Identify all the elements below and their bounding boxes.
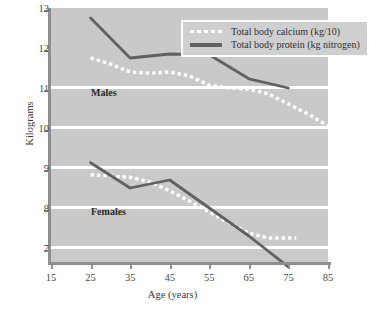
x-tick-label-35: 35 <box>118 272 142 283</box>
plot-inner: Males Females Total body calcium (kg/10)… <box>51 8 328 262</box>
x-tick-label-45: 45 <box>158 272 182 283</box>
x-tick-25 <box>91 262 93 269</box>
legend-label-protein: Total body protein (kg nitrogen) <box>231 39 360 51</box>
x-tick-65 <box>249 262 251 269</box>
x-tick-label-65: 65 <box>237 272 261 283</box>
x-tick-85 <box>328 262 330 269</box>
legend-item-calcium: Total body calcium (kg/10) <box>189 25 360 38</box>
annotation-males: Males <box>91 87 117 98</box>
x-tick-label-75: 75 <box>276 272 300 283</box>
x-tick-label-15: 15 <box>39 272 63 283</box>
annotation-females: Females <box>91 206 126 217</box>
legend-swatch-dotted-icon <box>189 27 223 37</box>
plot-area: Males Females Total body calcium (kg/10)… <box>51 8 328 262</box>
legend-label-calcium: Total body calcium (kg/10) <box>231 26 340 38</box>
legend-item-protein: Total body protein (kg nitrogen) <box>189 38 360 51</box>
y-tick-label-12: 12 <box>19 44 49 54</box>
x-tick-label-25: 25 <box>79 272 103 283</box>
y-tick-label-8: 8 <box>19 204 49 214</box>
x-tick-55 <box>209 262 211 269</box>
x-axis-title: Age (years) <box>0 289 345 300</box>
series-males-calcium <box>91 58 328 126</box>
x-tick-75 <box>288 262 290 269</box>
x-tick-45 <box>170 262 172 269</box>
y-axis-title: Kilograms <box>24 79 35 169</box>
x-tick-label-85: 85 <box>316 272 340 283</box>
y-tick-label-13: 13 <box>19 4 49 14</box>
chart-legend: Total body calcium (kg/10) Total body pr… <box>181 20 369 57</box>
legend-swatch-solid-icon <box>189 40 223 50</box>
y-tick-label-7: 7 <box>19 244 49 254</box>
x-tick-label-55: 55 <box>197 272 221 283</box>
x-tick-15 <box>51 262 53 269</box>
x-tick-35 <box>130 262 132 269</box>
